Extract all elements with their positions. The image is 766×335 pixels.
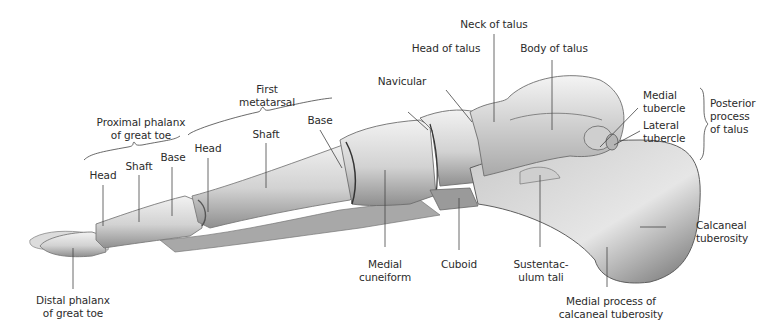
label-medial-process-calcaneal-tuberosity: Medial process of calcaneal tuberosity: [556, 295, 666, 321]
foot-skeleton-medial-view: Proximal phalanx of great toe First meta…: [0, 0, 766, 335]
foot-bones-illustration: [0, 0, 766, 335]
label-proximal-phalanx-head: Head: [85, 169, 121, 182]
label-medial-tubercle: Medial tubercle: [643, 89, 693, 115]
label-body-of-talus: Body of talus: [516, 42, 592, 55]
label-navicular: Navicular: [372, 75, 432, 88]
label-metatarsal-base: Base: [300, 114, 340, 127]
label-calcaneal-tuberosity: Calcaneal tuberosity: [696, 219, 766, 245]
label-metatarsal-head: Head: [188, 142, 228, 155]
label-medial-cuneiform: Medial cuneiform: [355, 258, 415, 284]
label-metatarsal-shaft: Shaft: [246, 128, 286, 141]
label-posterior-process-group: Posterior process of talus: [710, 97, 766, 136]
label-neck-of-talus: Neck of talus: [456, 18, 532, 31]
label-first-metatarsal-group: First metatarsal: [222, 83, 312, 109]
label-proximal-phalanx-shaft: Shaft: [121, 160, 157, 173]
label-sustentaculum-tali: Sustentac- ulum tali: [508, 258, 574, 284]
label-head-of-talus: Head of talus: [408, 42, 484, 55]
label-cuboid: Cuboid: [434, 258, 484, 271]
label-proximal-phalanx-base: Base: [155, 151, 191, 164]
label-proximal-phalanx-group: Proximal phalanx of great toe: [86, 116, 196, 142]
cuboid-bone: [430, 188, 478, 210]
label-lateral-tubercle: Lateral tubercle: [643, 119, 693, 145]
label-distal-phalanx: Distal phalanx of great toe: [20, 294, 126, 320]
lateral-tubercle-shape: [606, 134, 618, 150]
